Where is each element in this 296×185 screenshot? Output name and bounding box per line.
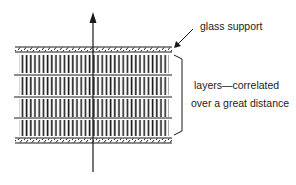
layers-label-line2: over a great distance <box>191 97 289 109</box>
layer-1 <box>19 55 169 73</box>
layers-bracket <box>174 55 182 135</box>
glass-support-label: glass support <box>200 20 262 32</box>
arrowhead-up-icon <box>90 12 97 23</box>
layers-label-line1: layers—correlated <box>194 79 279 91</box>
glass-support-pointer <box>174 29 193 48</box>
layer-2 <box>19 77 169 95</box>
layer-4 <box>19 120 169 136</box>
layer-3 <box>19 99 169 117</box>
